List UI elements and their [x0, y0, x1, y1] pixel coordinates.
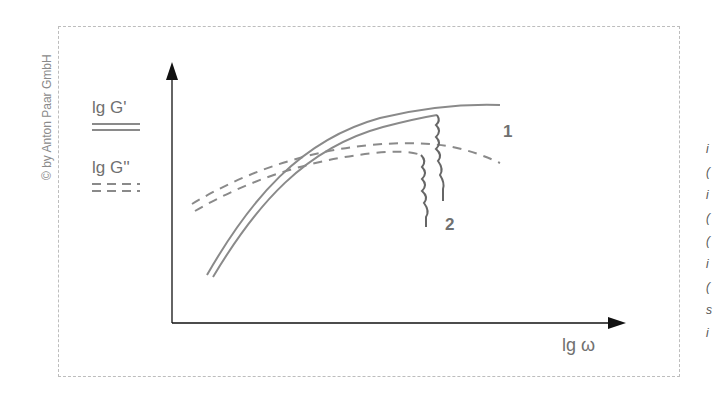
- edge-glyph: (: [706, 234, 719, 248]
- legend-gprime-label: lg G': [92, 98, 126, 117]
- edge-glyph: i: [706, 326, 719, 340]
- edge-glyph: (: [706, 211, 719, 225]
- legend-gprime-symbol: [92, 124, 140, 130]
- gprime-curve: [207, 105, 500, 277]
- breakdown-curves: [421, 115, 444, 227]
- edge-glyph: (: [706, 165, 719, 179]
- edge-glyph: s: [706, 303, 719, 317]
- x-axis-label: lg ω: [562, 335, 595, 355]
- curve-label-1: 1: [503, 122, 512, 141]
- edge-glyph: i: [706, 257, 719, 271]
- edge-glyph: (: [706, 280, 719, 294]
- edge-glyph: i: [706, 188, 719, 202]
- y-axis: [166, 62, 178, 323]
- edge-glyph: i: [706, 142, 719, 156]
- legend-gdoubleprime-symbol: [92, 184, 140, 191]
- rheology-diagram: lg G' lg G'' 1 2 lg ω: [0, 0, 719, 404]
- x-axis: [172, 317, 626, 329]
- gdoubleprime-curve: [192, 143, 500, 211]
- curve-label-2: 2: [445, 215, 454, 234]
- legend-gdoubleprime-label: lg G'': [92, 158, 130, 177]
